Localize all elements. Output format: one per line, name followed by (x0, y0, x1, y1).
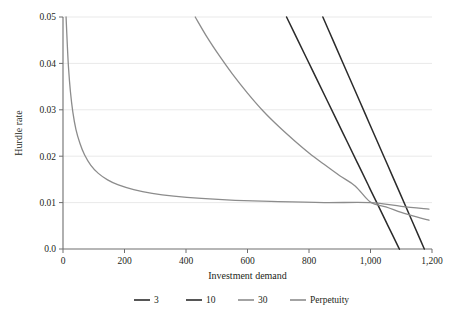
y-axis-title: Hurdle rate (13, 110, 24, 156)
y-tick-label: 0.04 (39, 59, 56, 69)
legend-label-30: 30 (258, 295, 268, 305)
x-tick-label: 600 (240, 256, 255, 266)
x-tick-label: 200 (117, 256, 132, 266)
x-tick-label: 0 (61, 256, 66, 266)
y-tick-label: 0.02 (39, 152, 56, 162)
x-tick-label: 800 (302, 256, 317, 266)
x-axis-title: Investment demand (208, 270, 287, 281)
legend-label-10: 10 (206, 295, 216, 305)
y-tick-label: 0.05 (39, 12, 56, 22)
hurdle-rate-investment-demand-chart: 02004006008001,0001,200 0.00.010.020.030… (0, 0, 459, 317)
x-tick-label: 1,200 (421, 256, 443, 266)
x-tick-label: 400 (179, 256, 194, 266)
chart-figure: 02004006008001,0001,200 0.00.010.020.030… (0, 0, 459, 317)
legend-label-3: 3 (154, 295, 159, 305)
y-tick-label: 0.03 (39, 105, 56, 115)
legend-label-perpetuity: Perpetuity (310, 295, 349, 305)
x-tick-label: 1,000 (360, 256, 382, 266)
y-tick-label: 0.0 (44, 244, 56, 254)
y-tick-label: 0.01 (39, 198, 56, 208)
